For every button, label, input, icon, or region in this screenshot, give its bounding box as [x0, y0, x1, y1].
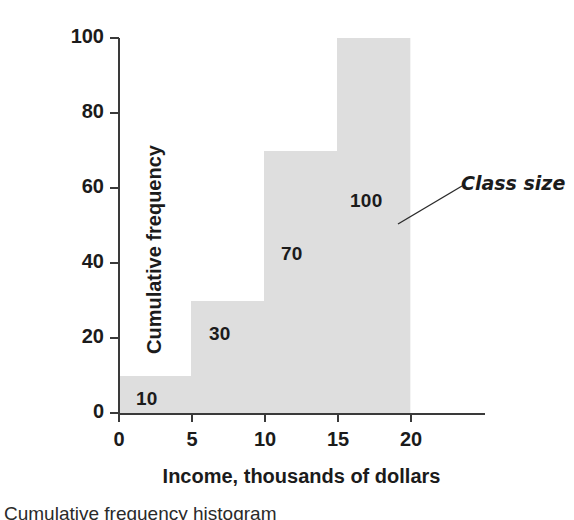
leader-line-segment: [398, 186, 462, 224]
x-axis-tick-label: 15: [308, 428, 368, 451]
y-axis-tick: [110, 187, 119, 189]
x-axis-tick: [410, 413, 412, 422]
y-axis-tick: [110, 337, 119, 339]
y-axis-tick-label: 100: [44, 25, 104, 48]
x-axis-line: [118, 413, 485, 415]
bar-value-label: 70: [281, 243, 303, 265]
x-axis-tick-label: 5: [162, 428, 222, 451]
y-axis-tick: [110, 112, 119, 114]
y-axis-tick: [110, 262, 119, 264]
bar-value-label: 100: [350, 190, 383, 212]
bar-value-label: 30: [209, 323, 231, 345]
x-axis-tick: [118, 413, 120, 422]
x-axis-tick-label: 10: [235, 428, 295, 451]
figure-container: 10 30 70 100 Cumulative frequency 0 20 4…: [0, 0, 574, 520]
histogram-bar: [191, 301, 265, 414]
x-axis-tick: [264, 413, 266, 422]
y-axis-line: [118, 38, 120, 415]
bar-value-label: 10: [136, 388, 158, 410]
x-axis-tick-label: 20: [381, 428, 441, 451]
histogram-bar: [264, 151, 338, 414]
y-axis-tick-label: 40: [44, 250, 104, 273]
annotation-label-class-size: Class size: [461, 172, 565, 194]
y-axis-tick-label: 80: [44, 100, 104, 123]
y-axis-tick: [110, 37, 119, 39]
y-axis-tick-label: 20: [44, 325, 104, 348]
x-axis-tick: [337, 413, 339, 422]
x-axis-tick: [191, 413, 193, 422]
x-axis-title: Income, thousands of dollars: [118, 465, 485, 488]
y-axis-title: Cumulative frequency: [143, 110, 166, 390]
annotation-leader-line: [396, 180, 466, 230]
y-axis-tick-label: 0: [44, 400, 104, 423]
y-axis-tick-label: 60: [44, 175, 104, 198]
x-axis-tick-label: 0: [89, 428, 149, 451]
plot-area: 10 30 70 100 Cumulative frequency: [118, 38, 410, 413]
figure-caption: Cumulative frequency histogram: [4, 503, 276, 520]
